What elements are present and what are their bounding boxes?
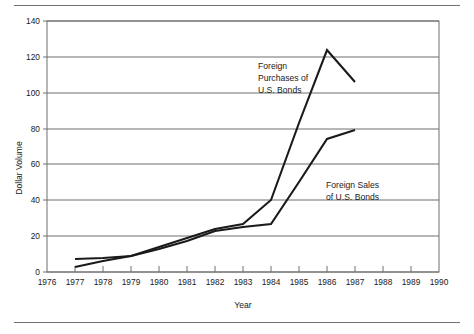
x-tick-label: 1983	[234, 277, 253, 287]
x-tick-label: 1988	[374, 277, 393, 287]
line-chart: 140 120 100 80 60 40 20 0	[0, 0, 474, 334]
figure-container: 140 120 100 80 60 40 20 0	[0, 0, 474, 334]
y-axis-ticks	[43, 21, 47, 272]
y-tick-labels: 140 120 100 80 60 40 20 0	[26, 16, 40, 277]
annotation-line: U.S. Bonds	[258, 85, 301, 95]
x-tick-label: 1980	[150, 277, 169, 287]
x-tick-label: 1982	[206, 277, 225, 287]
y-tick-label: 120	[26, 52, 40, 62]
x-tick-label: 1978	[94, 277, 113, 287]
x-tick-label: 1985	[290, 277, 309, 287]
y-axis-title: Dollar Volume	[14, 141, 24, 195]
y-tick-label: 60	[31, 159, 41, 169]
y-tick-label: 0	[35, 267, 40, 277]
x-tick-label: 1981	[178, 277, 197, 287]
annotation-line: Purchases of	[258, 73, 309, 83]
x-tick-label: 1987	[346, 277, 365, 287]
y-tick-label: 40	[31, 195, 41, 205]
x-axis-title: Year	[234, 300, 252, 310]
annotation-line: Foreign Sales	[326, 180, 379, 190]
x-tick-label: 1986	[318, 277, 337, 287]
annotation-line: of U.S. Bonds	[326, 192, 379, 202]
x-tick-label: 1976	[38, 277, 57, 287]
plot-frame	[47, 21, 439, 272]
x-tick-label: 1977	[66, 277, 85, 287]
y-tick-label: 20	[31, 231, 41, 241]
x-tick-labels: 1976 1977 1978 1979 1980 1981 1982 1983 …	[38, 277, 449, 287]
y-tick-label: 100	[26, 88, 40, 98]
x-tick-label: 1989	[402, 277, 421, 287]
annotation-line: Foreign	[258, 61, 287, 71]
x-tick-label: 1984	[262, 277, 281, 287]
y-tick-label: 140	[26, 16, 40, 26]
x-tick-label: 1979	[122, 277, 141, 287]
y-tick-label: 80	[31, 124, 41, 134]
x-tick-label: 1990	[430, 277, 449, 287]
